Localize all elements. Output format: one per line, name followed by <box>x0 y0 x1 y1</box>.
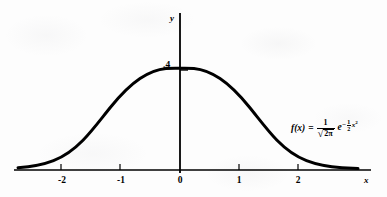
formula-exp-half: 1 2 <box>347 119 351 132</box>
formula-lhs: f(x) <box>291 124 305 134</box>
x-axis-label: x <box>364 176 369 185</box>
y-tick-label-0.4: .4 <box>163 61 170 71</box>
formula-exp-minus: − <box>342 122 346 129</box>
formula-denominator: √ 2π <box>317 129 335 140</box>
formula-exp-base: e <box>338 123 342 133</box>
formula-exp-power: 2 <box>355 120 358 125</box>
x-tick-label-0: 0 <box>175 176 185 186</box>
x-tick-label--1: -1 <box>114 176 128 186</box>
plot-canvas <box>0 0 387 197</box>
formula-fraction: 1 √ 2π <box>317 119 335 139</box>
formula-equals: = <box>308 124 313 134</box>
formula-annotation: f(x) = 1 √ 2π e − 1 2 x2 <box>291 119 358 139</box>
formula-exp-variable: x2 <box>352 120 358 129</box>
x-tick-label--2: -2 <box>55 176 69 186</box>
x-tick-label-2: 2 <box>293 176 303 186</box>
formula-numerator: 1 <box>323 119 329 128</box>
formula-exponential: e − 1 2 x2 <box>338 123 358 136</box>
formula-exponent: − 1 2 x2 <box>342 119 358 132</box>
y-axis-label: y <box>170 14 174 23</box>
formula-radicand: 2π <box>323 129 333 139</box>
sqrt-group: √ 2π <box>318 129 334 139</box>
normal-distribution-figure: y x .4 -2 -1 0 1 2 f(x) = 1 √ 2π e − 1 <box>0 0 387 197</box>
x-tick-label-1: 1 <box>234 176 244 186</box>
formula-exp-frac-den: 2 <box>347 126 350 132</box>
